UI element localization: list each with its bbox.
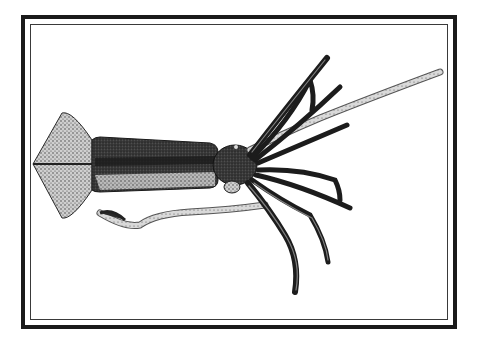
- squid-fin: [33, 113, 92, 218]
- squid-illustration: [0, 0, 477, 346]
- squid-eye: [224, 181, 240, 193]
